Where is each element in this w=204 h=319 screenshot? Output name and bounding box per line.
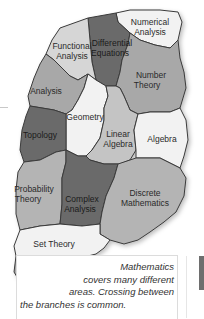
label-functional-analysis-1: Functional (52, 41, 91, 51)
label-set-theory: Set Theory (33, 239, 75, 249)
label-geometry: Geometry (66, 112, 104, 122)
label-probability-theory-1: Probability (14, 184, 54, 194)
label-complex-analysis-2: Analysis (64, 204, 96, 214)
caption-line-3: areas. Crossing between (22, 286, 174, 299)
label-linear-algebra-2: Algebra (103, 139, 133, 149)
label-linear-algebra-1: Linear (106, 129, 130, 139)
label-complex-analysis-1: Complex (65, 194, 99, 204)
caption: Mathematics covers many different areas.… (22, 261, 174, 311)
label-numerical-analysis-1: Numerical (131, 17, 169, 27)
caption-line-4: the branches is common. (20, 299, 174, 312)
label-analysis: Analysis (30, 86, 62, 96)
label-differential-equations-2: Equations (91, 48, 129, 58)
label-number-theory-1: Number (136, 70, 166, 80)
label-differential-equations-1: Differential (92, 38, 133, 48)
label-functional-analysis-2: Analysis (56, 51, 88, 61)
caption-line-2: covers many different (22, 274, 174, 287)
caption-line-1: Mathematics (22, 261, 174, 274)
label-algebra: Algebra (147, 134, 177, 144)
label-discrete-mathematics-2: Mathematics (121, 198, 169, 208)
label-topology: Topology (23, 130, 58, 140)
label-discrete-mathematics-1: Discrete (129, 188, 160, 198)
label-probability-theory-2: Theory (15, 194, 42, 204)
label-number-theory-2: Theory (134, 80, 161, 90)
label-numerical-analysis-2: Analysis (134, 27, 166, 37)
